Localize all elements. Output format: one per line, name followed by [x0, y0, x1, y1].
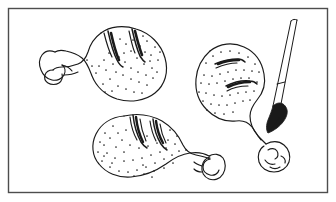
chicken-drumsticks-illustration [0, 0, 336, 202]
paper-background [0, 0, 336, 202]
illustration-page: Basting chicken drumsticks [0, 0, 336, 202]
